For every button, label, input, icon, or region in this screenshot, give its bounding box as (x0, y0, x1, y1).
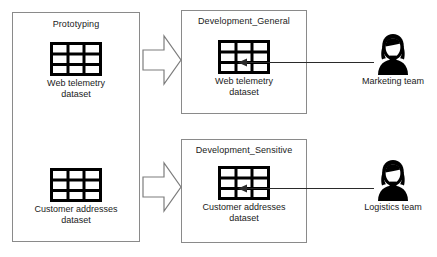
table-grid-icon (50, 168, 102, 202)
person-icon (374, 159, 412, 201)
dataset-caption-line1: Web telemetry (16, 78, 136, 89)
zone-development-sensitive-title: Development_Sensitive (182, 145, 306, 156)
dataset-general-web-telemetry[interactable]: Web telemetry dataset (184, 40, 304, 98)
actor-logistics-team-label: Logistics team (348, 202, 437, 213)
dataset-caption-line2: dataset (16, 89, 136, 100)
dataset-caption-line2: dataset (184, 213, 304, 224)
actor-marketing-team-label: Marketing team (348, 76, 437, 87)
dataset-caption-line1: Customer addresses (16, 204, 136, 215)
connector-promote-addresses[interactable] (142, 161, 182, 213)
diagram-canvas: Prototyping Development_General Developm… (0, 0, 437, 257)
dataset-sensitive-customer-addresses[interactable]: Customer addresses dataset (184, 166, 304, 224)
connector-promote-telemetry[interactable] (142, 34, 182, 86)
dataset-proto-web-telemetry[interactable]: Web telemetry dataset (16, 42, 136, 100)
dataset-proto-customer-addresses[interactable]: Customer addresses dataset (16, 168, 136, 226)
zone-prototyping-title: Prototyping (13, 19, 139, 30)
actor-marketing-team[interactable]: Marketing team (348, 33, 437, 87)
table-grid-icon (50, 42, 102, 76)
dataset-caption-line2: dataset (184, 87, 304, 98)
actor-logistics-team[interactable]: Logistics team (348, 159, 437, 213)
dataset-caption-line1: Customer addresses (184, 202, 304, 213)
person-icon (374, 33, 412, 75)
dataset-caption-line2: dataset (16, 215, 136, 226)
dataset-caption-line1: Web telemetry (184, 76, 304, 87)
zone-development-general-title: Development_General (182, 16, 306, 27)
